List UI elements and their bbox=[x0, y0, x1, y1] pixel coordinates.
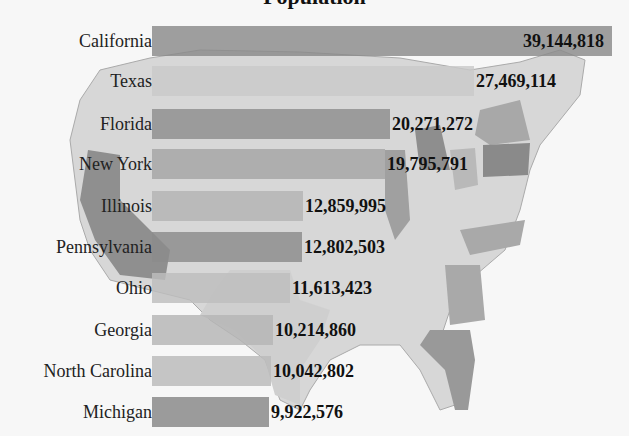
bar-row: Florida20,271,272 bbox=[0, 109, 629, 139]
bar bbox=[152, 149, 385, 179]
bar bbox=[152, 397, 269, 427]
category-label: New York bbox=[79, 149, 152, 179]
value-label: 20,271,272 bbox=[392, 109, 473, 139]
value-label: 27,469,114 bbox=[476, 66, 556, 96]
bar-row: Ohio11,613,423 bbox=[0, 273, 629, 303]
value-label: 9,922,576 bbox=[271, 397, 343, 427]
category-label: Pennsylvania bbox=[56, 232, 152, 262]
category-label: Georgia bbox=[94, 315, 152, 345]
bar bbox=[152, 273, 290, 303]
category-label: Florida bbox=[100, 109, 152, 139]
category-label: Michigan bbox=[83, 397, 152, 427]
category-label: Ohio bbox=[116, 273, 152, 303]
bar bbox=[152, 232, 302, 262]
bar-row: Illinois12,859,995 bbox=[0, 191, 629, 221]
bar-row: Texas27,469,114 bbox=[0, 66, 629, 96]
value-label: 39,144,818 bbox=[523, 26, 604, 56]
bar bbox=[152, 66, 474, 96]
bar-row: North Carolina10,042,802 bbox=[0, 356, 629, 386]
chart-title: Population bbox=[0, 0, 629, 10]
bar-row: California39,144,818 bbox=[0, 26, 629, 56]
category-label: California bbox=[79, 26, 152, 56]
value-label: 12,859,995 bbox=[305, 191, 386, 221]
bar bbox=[152, 315, 273, 345]
value-label: 12,802,503 bbox=[304, 232, 385, 262]
value-label: 11,613,423 bbox=[292, 273, 372, 303]
value-label: 10,214,860 bbox=[275, 315, 356, 345]
bar-row: Pennsylvania12,802,503 bbox=[0, 232, 629, 262]
bar bbox=[152, 109, 390, 139]
category-label: North Carolina bbox=[44, 356, 152, 386]
value-label: 10,042,802 bbox=[273, 356, 354, 386]
bar-row: New York19,795,791 bbox=[0, 149, 629, 179]
bar-row: Michigan9,922,576 bbox=[0, 397, 629, 427]
bar bbox=[152, 356, 271, 386]
category-label: Texas bbox=[110, 66, 152, 96]
bar-row: Georgia10,214,860 bbox=[0, 315, 629, 345]
category-label: Illinois bbox=[101, 191, 152, 221]
value-label: 19,795,791 bbox=[387, 149, 468, 179]
bar bbox=[152, 191, 303, 221]
